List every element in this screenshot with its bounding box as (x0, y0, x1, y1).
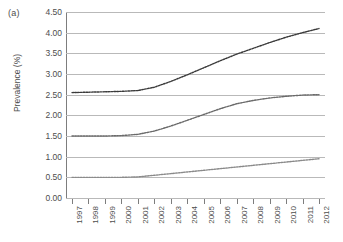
series-line (72, 29, 319, 93)
x-tick-label: 2001 (142, 206, 150, 224)
x-tick-label: 2011 (307, 206, 315, 223)
x-tick-mark (88, 199, 89, 204)
y-axis-tick-labels: 4.504.003.503.002.502.001.501.000.500.00 (26, 12, 62, 198)
x-tick-mark (187, 199, 188, 204)
x-tick-mark (286, 199, 287, 204)
x-tick-label: 2010 (290, 206, 298, 224)
x-tick-mark (220, 199, 221, 204)
x-tick-mark (72, 199, 73, 204)
x-tick-label: 1999 (109, 206, 117, 224)
y-axis-title: Prevalence (%) (12, 18, 22, 148)
x-tick-label: 1997 (76, 206, 84, 224)
y-tick-label: 4.00 (45, 28, 62, 37)
x-tick-mark (121, 199, 122, 204)
series-group (66, 12, 325, 198)
y-tick-label: 4.50 (45, 8, 62, 17)
x-tick-label: 2005 (208, 206, 216, 224)
x-tick-mark (204, 199, 205, 204)
x-axis-tick-labels: 1997199819992000200120022003200420052006… (66, 206, 325, 242)
y-tick-label: 0.00 (45, 194, 62, 203)
y-tick-label: 2.50 (45, 90, 62, 99)
x-tick-label: 2009 (274, 206, 282, 224)
panel-label: (a) (8, 8, 20, 18)
y-tick-label: 0.50 (45, 173, 62, 182)
x-tick-mark (138, 199, 139, 204)
x-tick-label: 1998 (92, 206, 100, 224)
chart-figure: (a) Prevalence (%) 4.504.003.503.002.502… (0, 0, 343, 242)
x-tick-label: 2006 (224, 206, 232, 224)
x-tick-label: 2008 (257, 206, 265, 224)
plot-area (66, 12, 325, 198)
y-tick-label: 1.50 (45, 132, 62, 141)
x-tick-label: 2012 (323, 206, 331, 224)
series-line (72, 159, 319, 178)
y-tick-label: 3.50 (45, 49, 62, 58)
x-tick-label: 2007 (241, 206, 249, 224)
y-tick-label: 2.00 (45, 111, 62, 120)
y-tick-label: 3.00 (45, 70, 62, 79)
series-line (72, 95, 319, 136)
x-tick-mark (171, 199, 172, 204)
x-tick-mark (253, 199, 254, 204)
y-tick-label: 1.00 (45, 152, 62, 161)
x-tick-label: 2004 (191, 206, 199, 224)
x-tick-mark (105, 199, 106, 204)
x-tick-label: 2003 (175, 206, 183, 224)
x-tick-label: 2000 (125, 206, 133, 224)
x-tick-label: 2002 (158, 206, 166, 224)
x-tick-mark (154, 199, 155, 204)
x-tick-mark (303, 199, 304, 204)
x-tick-mark (319, 199, 320, 204)
x-tick-mark (270, 199, 271, 204)
x-tick-mark (237, 199, 238, 204)
